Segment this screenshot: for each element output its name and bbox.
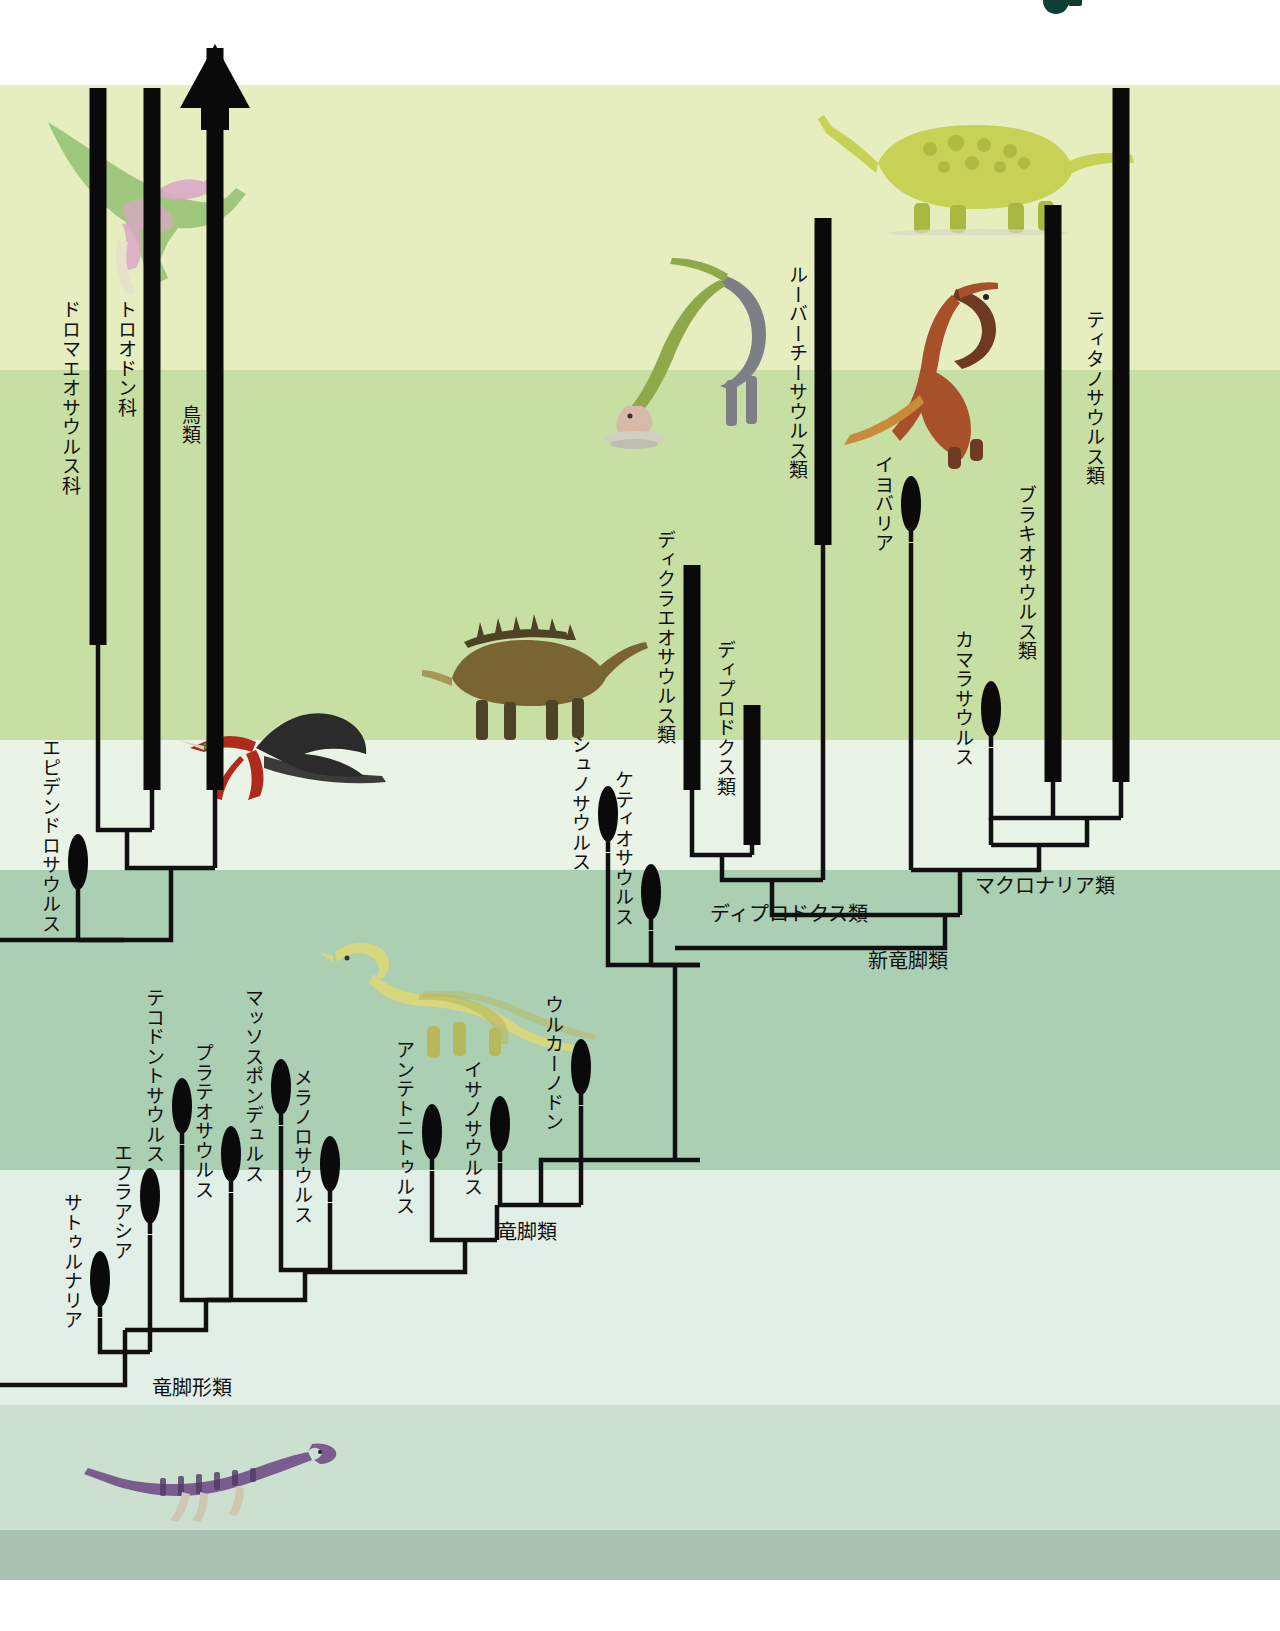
terminal-bar-titanosauria: [1113, 88, 1130, 782]
taxon-label-shunosaurus: シュノサウルス: [570, 735, 589, 872]
clade-label-macronaria: マクロナリア類: [975, 870, 1115, 899]
taxon-label-camarasaurus: カマラサウルス: [953, 630, 972, 767]
taxon-label-antetonitrus: アンテトニトゥルス: [394, 1040, 413, 1216]
taxon-label-isanosaurus: イサノサウルス: [462, 1060, 481, 1197]
taxon-label-dromaeosauridae: ドロマエオサウルス科: [60, 300, 79, 495]
terminal-tip-efraasia: [140, 1168, 160, 1224]
clade-label-diplodocoidea: ディプロドクス類: [710, 898, 868, 927]
clade-label-neosauropoda: 新竜脚類: [868, 945, 948, 974]
terminal-tip-vulcanodon: [571, 1039, 591, 1095]
birds-continuing-arrow-icon: [180, 44, 250, 130]
taxon-label-plateosaurus: プラテオサウルス: [193, 1043, 212, 1199]
taxon-label-titanosauria: ティタノサウルス類: [1084, 310, 1103, 486]
taxon-label-epidendrosaurus: エピデンドロサウルス: [40, 738, 59, 933]
taxon-label-efraasia: エフラアシア: [112, 1143, 131, 1260]
terminal-tip-euhelopus: [901, 476, 921, 532]
terminal-bar-aves: [207, 48, 224, 790]
terminal-bar-brachiosauridae: [1045, 205, 1062, 782]
taxon-label-saturnalia: サトゥルナリア: [62, 1193, 81, 1330]
clade-label-sauropodomorpha: 竜脚形類: [152, 1372, 232, 1401]
terminal-tip-antetonitrus: [422, 1104, 442, 1160]
cladogram-figure: ドロマエオサウルス科トロオドン科鳥類エピデンドロサウルスサトゥルナリアエフラアシ…: [0, 0, 1280, 1631]
taxon-label-vulcanodon: ウルカーノドン: [543, 995, 562, 1132]
terminal-tip-plateosaurus: [221, 1126, 241, 1182]
clade-label-sauropoda: 竜脚類: [497, 1216, 557, 1245]
taxon-label-brachiosauridae: ブラキオサウルス類: [1016, 485, 1035, 661]
terminal-bar-dromaeosauridae: [90, 88, 107, 645]
taxon-label-melanorosaurus: メラノロサウルス: [292, 1068, 311, 1224]
terminal-tip-saturnalia: [90, 1251, 110, 1307]
taxon-label-dicraeosauridae: ディクラエオサウルス類: [655, 530, 674, 745]
terminal-tip-epidendrosaurus: [68, 834, 88, 890]
terminal-tip-melanorosaurus: [320, 1136, 340, 1192]
taxon-label-aves: 鳥類: [180, 405, 199, 444]
terminal-tip-isanosaurus: [490, 1096, 510, 1152]
taxon-label-troodontidae: トロオドン科: [116, 300, 135, 417]
taxon-label-diplodocidae: ディプロドクス類: [715, 640, 734, 796]
terminal-bar-dicraeosauridae: [684, 565, 701, 790]
terminal-tip-cetiosaurus: [641, 864, 661, 920]
terminal-bar-rebbachisauridae: [815, 218, 832, 545]
taxon-label-euhelopus: イヨバリア: [873, 455, 892, 553]
terminal-bar-diplodocidae: [744, 705, 761, 845]
terminal-tip-camarasaurus: [981, 681, 1001, 737]
terminal-tip-massospondylus: [271, 1059, 291, 1115]
taxon-label-thecodontosaurus: テコドントサウルス: [144, 988, 163, 1164]
terminal-tip-thecodontosaurus: [172, 1078, 192, 1134]
taxon-label-cetiosaurus: ケティオサウルス: [613, 770, 632, 926]
taxon-label-massospondylus: マッソスポンデュルス: [243, 988, 262, 1183]
taxon-label-rebbachisauridae: ルーバーチーサウルス類: [787, 265, 806, 480]
terminal-bar-troodontidae: [144, 88, 161, 790]
